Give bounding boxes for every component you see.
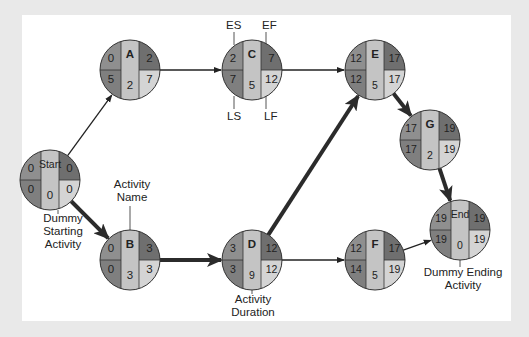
label-activity-duration: Activity Duration xyxy=(228,293,278,319)
activity-duration: 0 xyxy=(457,239,463,251)
late-finish-value: 3 xyxy=(146,263,152,275)
activity-duration: 0 xyxy=(47,189,53,201)
late-finish-value: 19 xyxy=(474,233,486,245)
early-finish-value: 7 xyxy=(268,52,274,64)
late-start-value: 19 xyxy=(435,233,447,245)
early-start-value: 17 xyxy=(405,122,417,134)
label-dummy-start-line1: Dummy xyxy=(38,212,88,225)
node-end: 19191919End0 xyxy=(430,200,490,260)
label-dummy-start-line3: Activity xyxy=(38,238,88,251)
early-start-value: 19 xyxy=(435,212,447,224)
label-dummy-start-line2: Starting xyxy=(38,225,88,238)
node-A: 0257A2 xyxy=(100,40,160,100)
late-finish-value: 12 xyxy=(265,73,278,85)
early-start-value: 12 xyxy=(350,52,362,64)
late-start-value: 3 xyxy=(230,263,236,275)
label-activity-name-line1: Activity xyxy=(112,178,152,191)
label-activity-duration-line1: Activity xyxy=(228,293,278,306)
early-finish-value: 2 xyxy=(146,52,152,64)
early-finish-value: 17 xyxy=(389,52,401,64)
late-start-value: 0 xyxy=(108,263,114,275)
nodes-layer: 0000Start00257A20303B327712C5312312D9121… xyxy=(20,40,490,290)
label-activity-name: Activity Name xyxy=(112,178,152,204)
node-D: 312312D9 xyxy=(222,230,282,290)
late-start-value: 0 xyxy=(28,183,34,195)
label-ef: EF xyxy=(262,19,277,32)
early-start-value: 0 xyxy=(108,52,114,64)
node-B: 0303B3 xyxy=(100,230,160,290)
activity-name: G xyxy=(426,118,435,130)
edge-D-to-E-critical xyxy=(268,96,358,235)
activity-name: E xyxy=(371,48,379,60)
activity-name: B xyxy=(126,238,134,250)
node-E: 12171217E5 xyxy=(345,40,405,100)
activity-duration: 5 xyxy=(372,79,378,91)
activity-duration: 2 xyxy=(127,79,133,91)
activity-name: D xyxy=(248,238,256,250)
late-finish-value: 19 xyxy=(444,143,456,155)
label-ls: LS xyxy=(227,110,241,123)
early-start-value: 12 xyxy=(350,242,362,254)
early-finish-value: 3 xyxy=(146,242,152,254)
edge-E-to-G-critical xyxy=(394,94,411,116)
node-G: 17191719G2 xyxy=(400,110,460,170)
label-dummy-end: Dummy Ending Activity xyxy=(423,266,503,292)
late-start-value: 17 xyxy=(405,143,417,155)
activity-name: F xyxy=(371,238,378,250)
late-finish-value: 12 xyxy=(266,263,278,275)
early-start-value: 0 xyxy=(28,162,34,174)
late-start-value: 12 xyxy=(350,73,362,85)
early-finish-value: 12 xyxy=(266,242,278,254)
label-lf: LF xyxy=(264,110,277,123)
activity-name: Start xyxy=(39,158,61,170)
early-finish-value: 0 xyxy=(66,162,72,174)
activity-name: End xyxy=(451,208,470,220)
activity-duration: 3 xyxy=(127,269,133,281)
early-finish-value: 17 xyxy=(389,242,401,254)
node-F: 12171419F5 xyxy=(345,230,405,290)
activity-duration: 5 xyxy=(249,79,255,91)
late-finish-value: 7 xyxy=(146,73,152,85)
activity-name: A xyxy=(126,48,134,60)
label-activity-duration-line2: Duration xyxy=(228,306,278,319)
activity-duration: 9 xyxy=(249,269,255,281)
edge-G-to-end-critical xyxy=(439,168,450,200)
early-start-value: 2 xyxy=(230,52,236,64)
activity-name: C xyxy=(248,48,256,60)
node-C: 27712C5 xyxy=(222,40,282,100)
label-dummy-end-line2: Activity xyxy=(423,279,503,292)
label-dummy-end-line1: Dummy Ending xyxy=(423,266,503,279)
edge-start-to-A xyxy=(68,95,112,156)
early-finish-value: 19 xyxy=(474,212,486,224)
early-start-value: 0 xyxy=(108,242,114,254)
late-finish-value: 19 xyxy=(389,263,401,275)
late-start-value: 7 xyxy=(230,73,236,85)
edge-F-to-end xyxy=(403,240,430,250)
late-start-value: 14 xyxy=(350,263,362,275)
early-start-value: 3 xyxy=(230,242,236,254)
late-finish-value: 0 xyxy=(66,183,72,195)
late-finish-value: 17 xyxy=(389,73,401,85)
label-dummy-start: Dummy Starting Activity xyxy=(38,212,88,251)
activity-duration: 5 xyxy=(372,269,378,281)
activity-duration: 2 xyxy=(427,149,433,161)
node-start: 0000Start0 xyxy=(20,150,80,210)
late-start-value: 5 xyxy=(108,73,114,85)
early-finish-value: 19 xyxy=(444,122,456,134)
label-activity-name-line2: Name xyxy=(112,191,152,204)
label-es: ES xyxy=(226,19,241,32)
